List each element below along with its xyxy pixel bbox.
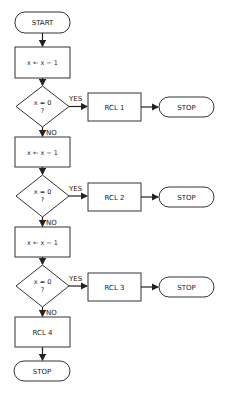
svg-text:RCL 2: RCL 2	[105, 194, 125, 202]
no-label: NO	[46, 309, 57, 317]
svg-text:STOP: STOP	[33, 368, 51, 376]
decision-diamond-3: x = 0 ?	[16, 265, 69, 307]
no-label: NO	[46, 129, 57, 137]
no-label: NO	[46, 219, 57, 227]
svg-text:RCL 4: RCL 4	[33, 329, 54, 337]
flowchart: START x ← x − 1 x = 0 ? YES RCL 1 STOP N…	[0, 0, 228, 402]
yes-label: YES	[68, 185, 83, 193]
rcl-1-box: RCL 1	[88, 93, 141, 121]
decision-diamond-2: x = 0 ?	[16, 175, 69, 217]
stop-terminal-2: STOP	[159, 187, 214, 207]
yes-label: YES	[68, 95, 83, 103]
stop-terminal-final: STOP	[14, 361, 70, 381]
svg-text:x ← x − 1: x ← x − 1	[27, 59, 58, 67]
svg-text:x ← x − 1: x ← x − 1	[27, 149, 58, 157]
rcl-2-box: RCL 2	[88, 183, 141, 211]
start-terminal: START	[15, 12, 70, 33]
process-box-1: x ← x − 1	[15, 47, 70, 78]
rcl-4-box: RCL 4	[15, 317, 70, 347]
rcl-3-box: RCL 3	[88, 273, 141, 301]
stop-terminal-3: STOP	[159, 277, 214, 297]
svg-text:x = 0: x = 0	[34, 278, 52, 286]
svg-text:?: ?	[41, 196, 44, 204]
svg-text:?: ?	[41, 107, 44, 115]
svg-text:x = 0: x = 0	[34, 188, 52, 196]
svg-text:x = 0: x = 0	[34, 99, 52, 107]
process-box-2: x ← x − 1	[15, 137, 70, 167]
stop-terminal-1: STOP	[159, 97, 214, 117]
yes-label: YES	[68, 275, 83, 283]
svg-text:x ← x − 1: x ← x − 1	[27, 239, 58, 247]
svg-text:STOP: STOP	[177, 104, 195, 112]
decision-diamond-1: x = 0 ?	[16, 86, 69, 127]
svg-text:?: ?	[41, 286, 44, 294]
svg-text:RCL 1: RCL 1	[105, 104, 125, 112]
svg-text:START: START	[32, 19, 54, 27]
process-box-3: x ← x − 1	[15, 227, 70, 257]
svg-text:STOP: STOP	[177, 284, 195, 292]
svg-text:STOP: STOP	[177, 194, 195, 202]
svg-text:RCL 3: RCL 3	[105, 284, 125, 292]
